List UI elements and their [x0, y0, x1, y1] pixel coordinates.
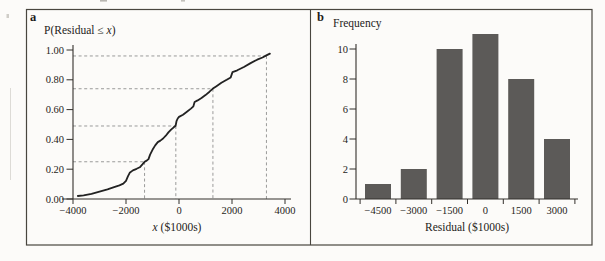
scan-speck	[181, 0, 185, 2]
cdf-x-tick-label: −2000	[113, 205, 140, 216]
cdf-y-axis-title: P(Residual ≤ x)	[44, 24, 116, 37]
cdf-x-tick-label: 2000	[222, 205, 243, 216]
hist-y-axis-title: Frequency	[333, 17, 382, 30]
histogram-bar	[365, 184, 391, 199]
cdf-x-axis-title: x ($1000s)	[152, 221, 202, 234]
panel-b-label: b	[317, 10, 324, 24]
hist-x-tick-label: −4500	[365, 205, 392, 216]
hist-x-tick-label: −3000	[400, 205, 427, 216]
hist-y-tick-label: 6	[343, 104, 348, 115]
hist-y-tick-label: 2	[343, 164, 348, 175]
scan-speck	[7, 14, 10, 18]
hist-x-axis-title: Residual ($1000s)	[425, 221, 509, 234]
histogram-bar	[437, 49, 463, 199]
cdf-y-tick-label: 0.60	[46, 104, 64, 115]
cdf-y-tick-label: 0.40	[46, 134, 64, 145]
cdf-y-tick-label: 0.00	[46, 194, 64, 205]
scan-speck	[100, 0, 107, 2]
hist-x-tick-label: 0	[483, 205, 488, 216]
hist-x-tick-label: 3000	[547, 205, 568, 216]
hist-y-tick-label: 10	[338, 44, 349, 55]
hist-y-tick-label: 0	[343, 194, 348, 205]
histogram-bar	[401, 169, 427, 199]
figure: a b P(Residual ≤ x) x ($1000s) Frequency…	[0, 0, 605, 261]
hist-y-tick-label: 4	[343, 134, 349, 145]
cdf-y-tick-label: 1.00	[46, 45, 64, 56]
cdf-x-tick-label: −4000	[60, 205, 87, 216]
histogram-bar	[544, 139, 570, 199]
cdf-x-tick-label: 0	[176, 205, 181, 216]
histogram-bar	[472, 34, 498, 199]
histogram-bar	[508, 79, 534, 199]
hist-x-tick-label: 1500	[511, 205, 532, 216]
hist-x-tick-label: −1500	[436, 205, 463, 216]
panel-a-label: a	[30, 10, 37, 24]
cdf-y-tick-label: 0.20	[46, 164, 64, 175]
hist-y-tick-label: 8	[343, 74, 348, 85]
cdf-x-tick-label: 4000	[275, 205, 296, 216]
cdf-y-tick-label: 0.80	[46, 74, 64, 85]
